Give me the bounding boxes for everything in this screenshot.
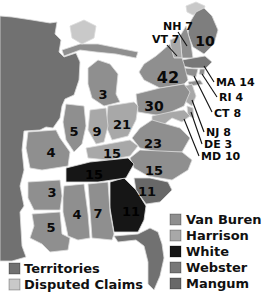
callout-label-vt: VT 7	[152, 33, 180, 46]
state-votes-label-la: 5	[46, 220, 55, 235]
state-votes-label-va: 23	[144, 136, 162, 151]
state-votes-label-ms: 4	[72, 207, 81, 222]
legend-swatch-mangum	[170, 278, 181, 289]
legend-label-webster: Webster	[186, 260, 248, 275]
callout-label-md: MD 10	[201, 150, 241, 163]
state-votes-label-ny: 42	[157, 68, 179, 87]
legend-swatch-territories	[9, 263, 20, 274]
legend-label-harrison: Harrison	[186, 228, 249, 243]
state-votes-label-ga: 11	[122, 204, 140, 219]
legend-swatch-disputed	[9, 279, 20, 290]
legend-label-disputed: Disputed Claims	[24, 277, 143, 292]
state-votes-label-pa: 30	[144, 98, 164, 114]
state-ar	[28, 180, 62, 210]
region-northwest-disputed	[70, 20, 96, 44]
state-votes-label-nc: 15	[145, 163, 163, 178]
legend-swatch-webster	[170, 262, 181, 273]
state-votes-label-il: 5	[69, 124, 78, 139]
legend-label-white: White	[186, 244, 229, 259]
legend-swatch-van-buren	[170, 214, 181, 225]
electoral-map-figure: 1042302315111121953151543547NH 7VT 7MA 1…	[0, 0, 265, 305]
state-votes-label-ar: 3	[47, 185, 56, 200]
legend-label-van-buren: Van Buren	[186, 212, 262, 227]
state-votes-label-oh: 21	[113, 117, 131, 132]
state-votes-label-in: 9	[92, 124, 101, 139]
legend-swatch-harrison	[170, 230, 181, 241]
callout-label-nh: NH 7	[163, 20, 193, 33]
state-votes-label-mo: 4	[46, 145, 55, 160]
state-votes-label-mi: 3	[98, 87, 107, 102]
legend-swatch-white	[170, 246, 181, 257]
state-votes-label-sc: 11	[138, 184, 156, 199]
callout-line-ri	[202, 74, 217, 97]
state-votes-label-me: 10	[195, 33, 215, 49]
callout-label-ma: MA 14	[216, 76, 255, 89]
callout-line-ct	[194, 76, 212, 112]
state-votes-label-tn: 15	[85, 167, 103, 182]
legend-label-territories: Territories	[24, 261, 100, 276]
state-votes-label-al: 7	[93, 206, 102, 221]
electoral-map: 1042302315111121953151543547NH 7VT 7MA 1…	[0, 0, 265, 305]
callout-label-ct: CT 8	[214, 107, 241, 120]
legend-label-mangum: Mangum	[186, 276, 249, 291]
state-votes-label-ky: 15	[103, 146, 121, 161]
callout-label-ri: RI 4	[219, 91, 243, 104]
